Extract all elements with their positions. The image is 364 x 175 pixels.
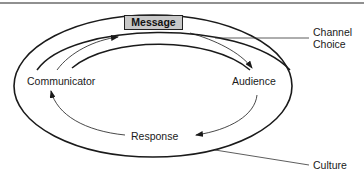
channel-choice-label-line2: Choice [313,38,346,50]
culture-label: Culture [313,159,347,171]
audience-label: Audience [232,75,276,87]
arrow-response-to-communicator [51,91,125,135]
communicator-label: Communicator [27,75,95,87]
channel-choice-label-line1: Channel [313,26,352,38]
arrow-audience-to-response [196,95,257,135]
message-box: Message [124,15,183,30]
channel-arc-inner [72,44,250,70]
response-label: Response [131,130,178,142]
culture-leader [215,150,309,165]
